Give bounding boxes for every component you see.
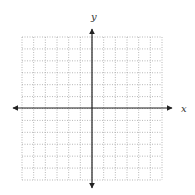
- x-axis-label: x: [181, 103, 187, 114]
- coordinate-plane: x y: [0, 0, 195, 195]
- y-axis-label: y: [90, 11, 97, 22]
